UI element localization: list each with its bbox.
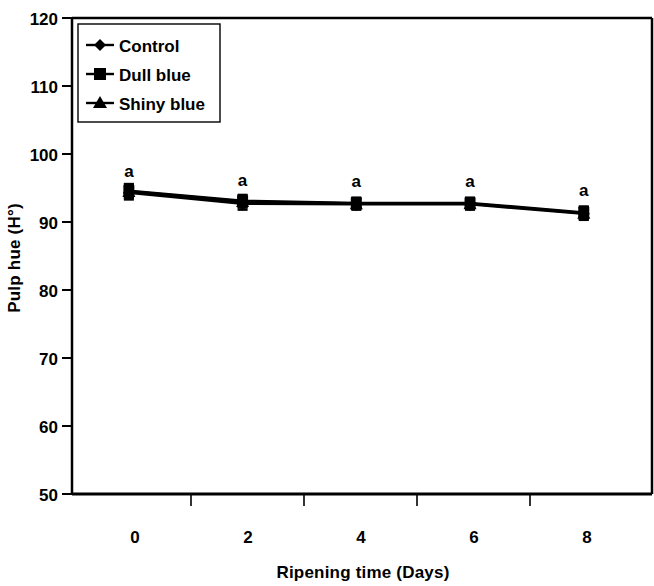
x-axis-ticks: [191, 494, 530, 506]
legend-label-shiny-blue: Shiny blue: [119, 95, 205, 114]
x-tick-label: 2: [243, 528, 252, 547]
y-tick-label: 60: [39, 418, 58, 437]
x-tick-labels: 0 2 4 6 8: [130, 528, 591, 547]
x-tick-label: 4: [356, 528, 366, 547]
x-tick-label: 6: [469, 528, 478, 547]
square-marker-icon: [94, 68, 106, 80]
significance-letter: a: [465, 172, 475, 191]
significance-annotations: aaaaa: [124, 162, 589, 200]
y-tick-label: 80: [39, 282, 58, 301]
pulp-hue-line-chart: 120 110 100 90 80 70 60 50 0 2 4 6 8 Rip…: [0, 0, 654, 586]
y-tick-labels: 120 110 100 90 80 70 60 50: [30, 10, 58, 505]
y-axis-ticks: [62, 18, 72, 494]
significance-letter: a: [352, 172, 362, 191]
y-tick-label: 70: [39, 350, 58, 369]
significance-letter: a: [124, 162, 134, 181]
significance-letter: a: [238, 171, 248, 190]
y-axis-title: Pulp hue (H°): [5, 203, 24, 313]
significance-letter: a: [579, 181, 589, 200]
legend: Control Dull blue Shiny blue: [78, 24, 220, 122]
y-tick-label: 50: [39, 486, 58, 505]
y-tick-label: 90: [39, 214, 58, 233]
legend-label-dull-blue: Dull blue: [119, 66, 191, 85]
chart-figure: 120 110 100 90 80 70 60 50 0 2 4 6 8 Rip…: [0, 0, 654, 586]
x-tick-label: 0: [130, 528, 139, 547]
y-tick-label: 100: [30, 146, 58, 165]
x-axis-title: Ripening time (Days): [276, 563, 449, 582]
y-tick-label: 120: [30, 10, 58, 29]
x-tick-label: 8: [582, 528, 591, 547]
y-tick-label: 110: [31, 78, 58, 97]
legend-label-control: Control: [119, 37, 179, 56]
